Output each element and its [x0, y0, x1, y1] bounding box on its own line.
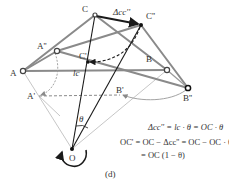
equation-line-1: Δcc'' = lc · θ = OC · θ [148, 123, 223, 132]
label-delta-cc: Δcc'' [113, 8, 130, 17]
label-b1: B' [116, 86, 124, 95]
joints [20, 13, 190, 91]
label-lc: lc [73, 69, 80, 78]
label-c: C [82, 5, 88, 14]
joint-c2 [139, 23, 143, 27]
theta-arc [76, 125, 88, 128]
label-theta: θ [79, 115, 83, 124]
label-b: B [146, 55, 152, 64]
dashed-a1-b1 [39, 95, 120, 96]
label-c2: C'' [146, 12, 155, 21]
label-a: A [10, 69, 17, 78]
label-o: O [69, 154, 76, 163]
equation-line-3: = OC (1 − θ) [141, 151, 185, 160]
arc-b2-b1 [123, 90, 186, 100]
label-b2: B'' [183, 94, 192, 103]
label-a1: A' [27, 92, 35, 101]
gray-links [23, 15, 188, 88]
pivot-o [70, 147, 74, 151]
equation-line-2: OC' = OC − Δcc'' = OC − OC · θ [120, 138, 229, 147]
label-c1: C' [79, 52, 87, 61]
figure-caption: (d) [105, 169, 116, 179]
label-a2: A'' [37, 42, 47, 51]
